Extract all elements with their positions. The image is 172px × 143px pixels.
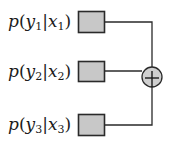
connector-factor-1 xyxy=(104,22,152,67)
factor-sum-diagram: p(y1|x1) p(y2|x2) p(y3|x3) xyxy=(0,0,172,143)
factor-label-3: p(y3|x3) xyxy=(8,116,71,135)
factor-box-2 xyxy=(79,62,105,82)
sum-node xyxy=(142,67,162,87)
factor-label-2: p(y2|x2) xyxy=(8,63,71,82)
factor-box-1 xyxy=(79,12,105,33)
connector-factor-3 xyxy=(104,87,152,125)
factor-label-1: p(y1|x1) xyxy=(8,13,71,32)
factor-box-3 xyxy=(79,115,105,136)
